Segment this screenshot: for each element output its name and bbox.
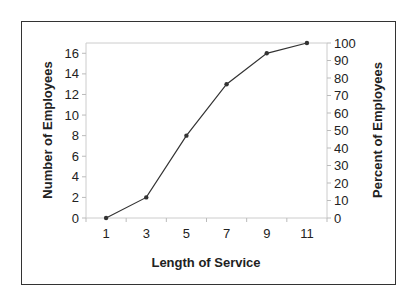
y2-tick-label: 20 — [334, 176, 348, 191]
data-point — [104, 216, 108, 220]
data-point — [144, 195, 148, 199]
y2-tick-label: 50 — [334, 123, 348, 138]
y-tick-label: 0 — [72, 211, 79, 226]
y2-tick-label: 10 — [334, 193, 348, 208]
y2-tick-label: 40 — [334, 141, 348, 156]
y-tick-label: 10 — [65, 108, 79, 123]
x-tick-label: 1 — [102, 226, 109, 241]
x-tick-label: 11 — [300, 226, 314, 241]
y-tick-label: 14 — [65, 66, 79, 81]
line-chart: 0246810121416010203040506070809010013579… — [0, 0, 418, 301]
y-tick-label: 12 — [65, 87, 79, 102]
x-tick-label: 3 — [143, 226, 150, 241]
y2-tick-label: 70 — [334, 88, 348, 103]
x-tick-label: 5 — [183, 226, 190, 241]
data-point — [224, 82, 228, 86]
plot-area: 0246810121416010203040506070809010013579… — [65, 36, 356, 242]
data-point — [265, 51, 269, 55]
data-line — [106, 43, 307, 218]
y2-tick-label: 30 — [334, 158, 348, 173]
y2-axis-title: Percent of Employees — [370, 62, 385, 198]
y-tick-label: 16 — [65, 46, 79, 61]
y2-tick-label: 0 — [334, 211, 341, 226]
y2-tick-label: 60 — [334, 106, 348, 121]
y2-tick-label: 80 — [334, 71, 348, 86]
y-axis-title: Number of Employees — [40, 61, 55, 198]
data-point — [305, 41, 309, 45]
y-tick-label: 8 — [72, 128, 79, 143]
x-tick-label: 9 — [263, 226, 270, 241]
y2-tick-label: 90 — [334, 53, 348, 68]
y-tick-label: 6 — [72, 149, 79, 164]
x-tick-label: 7 — [223, 226, 230, 241]
x-axis-title: Length of Service — [151, 255, 260, 270]
data-point — [184, 133, 188, 137]
y-tick-label: 4 — [72, 169, 79, 184]
y-tick-label: 2 — [72, 190, 79, 205]
y2-tick-label: 100 — [334, 36, 356, 51]
